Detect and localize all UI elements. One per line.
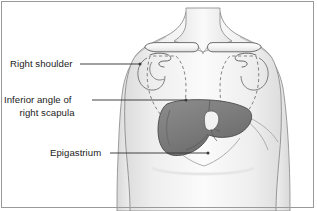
label-epigastrium: Epigastrium — [50, 147, 101, 158]
leader-dot-inferior-angle — [185, 99, 188, 102]
label-right-shoulder: Right shoulder — [10, 58, 73, 69]
referred-pain-figure: Right shoulder Inferior angle ofright sc… — [0, 0, 317, 211]
right-clavicle — [145, 43, 199, 52]
label-inferior-angle-right-scapula: Inferior angle ofright scapula — [4, 94, 90, 119]
label-line-1: Inferior angle of — [4, 94, 72, 105]
label-line-2: right scapula — [4, 107, 90, 120]
leader-dot-epigastrium — [207, 152, 210, 155]
left-clavicle — [208, 43, 262, 52]
leader-dot-right-shoulder — [139, 63, 142, 66]
